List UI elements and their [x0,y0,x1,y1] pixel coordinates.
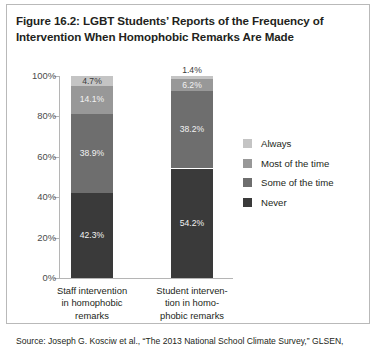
category-label-student-line3: phobic remarks [140,310,244,322]
segment-label-student-never: 54.2% [171,219,213,228]
segment-staff-some[interactable]: 38.9% [71,114,113,193]
y-axis-line [59,76,60,279]
segment-label-staff-always: 4.7% [71,77,113,86]
segment-label-student-most: 6.2% [171,81,213,90]
category-label-student-line1: Student interven- [140,285,244,297]
y-tick-label-100: 100% [32,71,56,81]
segment-staff-most[interactable]: 14.1% [71,86,113,115]
category-label-staff: Staff intervention in homophobic remarks [40,285,144,322]
category-label-staff-line3: remarks [40,310,144,322]
segment-student-never[interactable]: 54.2% [171,169,213,279]
chart-legend: Always Most of the time Some of the time… [243,134,334,212]
legend-swatch-never-icon [243,198,252,207]
y-tick-label-80: 80% [37,111,56,121]
bar-staff-intervention[interactable]: 4.7% 14.1% 38.9% 42.3% [71,76,113,278]
segment-staff-never[interactable]: 42.3% [71,193,113,278]
segment-label-student-some: 38.2% [171,125,213,134]
segment-label-student-always: 1.4% [171,66,213,75]
segment-label-staff-some: 38.9% [71,149,113,158]
y-tick-label-20: 20% [37,233,56,243]
segment-student-some[interactable]: 38.2% [171,91,213,168]
legend-item-always[interactable]: Always [243,134,334,154]
y-tick-label-40: 40% [37,192,56,202]
segment-label-staff-never: 42.3% [71,231,113,240]
legend-item-most-of-the-time[interactable]: Most of the time [243,154,334,174]
legend-swatch-most-of-the-time-icon [243,159,252,168]
legend-item-never[interactable]: Never [243,193,334,213]
category-label-student-line2: tion in homo- [140,297,244,309]
category-label-staff-line2: in homophobic [40,297,144,309]
legend-item-some-of-the-time[interactable]: Some of the time [243,173,334,193]
legend-label-most-of-the-time: Most of the time [261,158,329,169]
y-tick-label-0: 0% [42,273,56,283]
chart-plot-area: 100% 80% 60% 40% 20% 0% 4.7% 14.1% 38.9%… [0,0,378,358]
segment-label-staff-most: 14.1% [71,95,113,104]
legend-label-always: Always [261,138,291,149]
x-axis-line [59,278,233,279]
legend-swatch-some-of-the-time-icon [243,178,252,187]
category-label-student: Student interven- tion in homo- phobic r… [140,285,244,322]
segment-staff-always[interactable]: 4.7% [71,76,113,86]
source-note: Source: Joseph G. Kosciw et al., “The 20… [16,336,368,347]
segment-student-most[interactable]: 6.2% [171,79,213,92]
category-label-staff-line1: Staff intervention [40,285,144,297]
legend-label-never: Never [261,197,287,208]
bar-student-intervention[interactable]: 6.2% 38.2% 54.2% [171,76,213,278]
y-tick-label-60: 60% [37,152,56,162]
legend-label-some-of-the-time: Some of the time [261,177,334,188]
legend-swatch-always-icon [243,139,252,148]
